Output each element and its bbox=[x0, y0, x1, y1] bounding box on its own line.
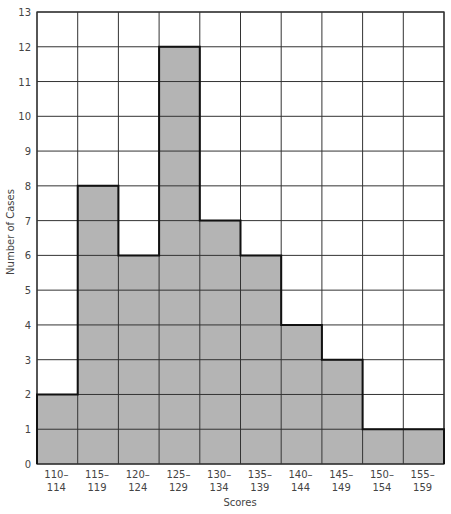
y-axis-label: Number of Cases bbox=[5, 189, 16, 275]
histogram-bar bbox=[200, 221, 241, 464]
x-tick-label-line1: 130– bbox=[207, 469, 231, 480]
y-tick-label: 11 bbox=[18, 77, 31, 88]
x-tick-label-line2: 149 bbox=[332, 482, 351, 493]
y-axis-ticks: 012345678910111213 bbox=[18, 7, 31, 470]
x-tick-label-line2: 114 bbox=[47, 482, 66, 493]
x-tick-label-line1: 125– bbox=[166, 469, 190, 480]
histogram-bar bbox=[403, 429, 444, 464]
x-tick-label-line1: 135– bbox=[248, 469, 272, 480]
x-axis-ticks: 110–114115–119120–124125–129130–134135–1… bbox=[44, 469, 434, 493]
y-tick-label: 6 bbox=[25, 250, 31, 261]
x-tick-label-line2: 139 bbox=[250, 482, 269, 493]
y-tick-label: 1 bbox=[25, 424, 31, 435]
histogram-bar bbox=[322, 360, 363, 464]
x-tick-label-line2: 124 bbox=[128, 482, 147, 493]
x-tick-label-line2: 134 bbox=[210, 482, 229, 493]
y-tick-label: 0 bbox=[25, 459, 31, 470]
x-tick-label-line2: 119 bbox=[88, 482, 107, 493]
y-tick-label: 9 bbox=[25, 146, 31, 157]
x-tick-label-line1: 140– bbox=[289, 469, 313, 480]
y-tick-label: 8 bbox=[25, 181, 31, 192]
y-tick-label: 13 bbox=[18, 7, 31, 18]
x-tick-label-line1: 150– bbox=[370, 469, 394, 480]
y-tick-label: 3 bbox=[25, 355, 31, 366]
histogram-bar bbox=[363, 429, 404, 464]
y-tick-label: 5 bbox=[25, 285, 31, 296]
x-tick-label-line2: 129 bbox=[169, 482, 188, 493]
y-tick-label: 7 bbox=[25, 216, 31, 227]
x-tick-label-line1: 120– bbox=[126, 469, 150, 480]
y-tick-label: 2 bbox=[25, 389, 31, 400]
y-tick-label: 10 bbox=[18, 111, 31, 122]
x-tick-label-line1: 110– bbox=[44, 469, 68, 480]
y-tick-label: 12 bbox=[18, 42, 31, 53]
x-tick-label-line2: 159 bbox=[413, 482, 432, 493]
x-tick-label-line1: 145– bbox=[329, 469, 353, 480]
x-tick-label-line2: 144 bbox=[291, 482, 310, 493]
histogram-chart: 012345678910111213 110–114115–119120–124… bbox=[0, 0, 451, 514]
x-tick-label-line2: 154 bbox=[372, 482, 391, 493]
y-tick-label: 4 bbox=[25, 320, 31, 331]
x-axis-label: Scores bbox=[223, 497, 256, 508]
x-tick-label-line1: 115– bbox=[85, 469, 109, 480]
x-tick-label-line1: 155– bbox=[411, 469, 435, 480]
